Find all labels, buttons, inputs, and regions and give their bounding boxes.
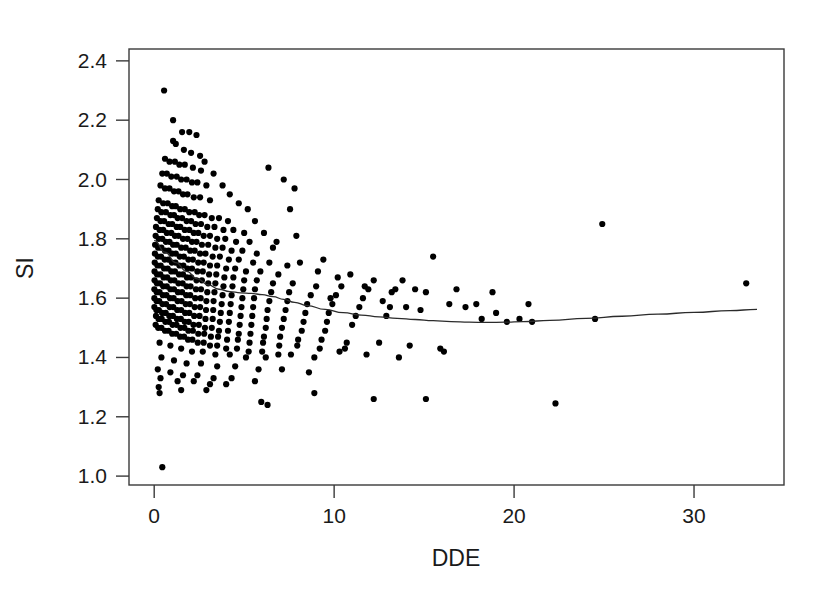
data-point (191, 194, 197, 200)
data-point (233, 239, 239, 245)
data-point (252, 286, 258, 292)
data-point (166, 159, 172, 165)
data-point (224, 337, 230, 343)
data-point (306, 369, 312, 375)
data-point (202, 316, 208, 322)
data-point (207, 233, 213, 239)
data-point (251, 295, 257, 301)
data-point (213, 271, 219, 277)
data-point (171, 357, 177, 363)
data-point (201, 331, 207, 337)
data-point (250, 259, 256, 265)
data-point (222, 236, 228, 242)
y-axis-ticks (116, 61, 129, 476)
data-point (205, 242, 211, 248)
data-point (198, 286, 204, 292)
data-point (396, 354, 402, 360)
data-point (221, 274, 227, 280)
data-point (184, 191, 190, 197)
data-point (226, 319, 232, 325)
data-point (207, 262, 213, 268)
data-point (380, 298, 386, 304)
data-point (179, 129, 185, 135)
data-point (210, 254, 216, 260)
data-point (198, 221, 204, 227)
data-point (493, 310, 499, 316)
data-point (215, 334, 221, 340)
data-point (189, 265, 195, 271)
data-point (275, 271, 281, 277)
data-point (230, 227, 236, 233)
data-point (288, 351, 294, 357)
x-tick-label: 10 (322, 504, 345, 527)
data-point (190, 322, 196, 328)
data-point (178, 387, 184, 393)
data-point (241, 230, 247, 236)
data-point (195, 340, 201, 346)
data-point (201, 233, 207, 239)
data-point (210, 170, 216, 176)
data-point (206, 271, 212, 277)
data-point (329, 301, 335, 307)
data-point (376, 340, 382, 346)
data-point (263, 325, 269, 331)
y-tick-label: 1.2 (78, 405, 107, 428)
data-point (284, 262, 290, 268)
data-point (412, 286, 418, 292)
data-point (219, 182, 225, 188)
data-point (198, 295, 204, 301)
data-point (178, 345, 184, 351)
data-point (311, 354, 317, 360)
data-point (157, 375, 163, 381)
data-point (246, 239, 252, 245)
data-point (183, 176, 189, 182)
data-point (207, 197, 213, 203)
data-point (227, 351, 233, 357)
data-point (158, 354, 164, 360)
data-point (223, 345, 229, 351)
data-point (225, 218, 231, 224)
data-point (196, 322, 202, 328)
y-axis-tick-labels: 1.01.21.41.61.82.02.22.4 (78, 49, 108, 487)
data-point (192, 295, 198, 301)
data-point (189, 348, 195, 354)
data-point (287, 206, 293, 212)
data-point (335, 274, 341, 280)
data-point (197, 251, 203, 257)
data-point (423, 396, 429, 402)
data-point (264, 402, 270, 408)
data-point (189, 179, 195, 185)
data-point (214, 363, 220, 369)
data-point (326, 310, 332, 316)
data-point (255, 366, 261, 372)
data-point (187, 283, 193, 289)
data-point (277, 334, 283, 340)
data-point (264, 307, 270, 313)
data-point (462, 304, 468, 310)
data-point (276, 343, 282, 349)
data-point (190, 165, 196, 171)
data-point (180, 372, 186, 378)
data-point (226, 256, 232, 262)
data-point (219, 292, 225, 298)
data-point (270, 280, 276, 286)
data-point (300, 319, 306, 325)
data-point (236, 200, 242, 206)
data-point (371, 396, 377, 402)
data-point (349, 322, 355, 328)
data-point (302, 310, 308, 316)
data-point (203, 298, 209, 304)
data-point (216, 215, 222, 221)
y-tick-label: 1.8 (78, 227, 107, 250)
data-point (192, 221, 198, 227)
data-point (219, 301, 225, 307)
data-point (356, 304, 362, 310)
data-point (217, 319, 223, 325)
data-point (237, 313, 243, 319)
data-point (193, 132, 199, 138)
data-point (247, 331, 253, 337)
y-tick-label: 2.0 (78, 168, 107, 191)
data-point (195, 259, 201, 265)
data-point (479, 316, 485, 322)
data-point (155, 366, 161, 372)
